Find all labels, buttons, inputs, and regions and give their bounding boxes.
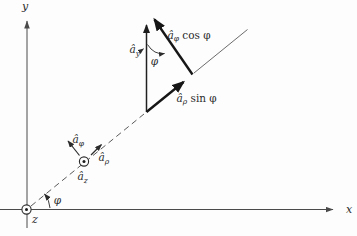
y-axis-label: y <box>21 0 29 13</box>
a-rho-unit-vector-label: âρ <box>99 151 110 166</box>
figure-canvas: y x z φ φ ây âφ âρ âz âφ cos φ âρ sin φ <box>0 0 357 236</box>
a-z-unit-vector-label: âz <box>78 170 88 185</box>
a-y-vector-label: ây <box>130 43 141 58</box>
a-rho-sin-phi-label: âρ sin φ <box>177 92 217 107</box>
a-z-out-of-page-icon <box>79 157 88 166</box>
x-axis-label: x <box>346 203 353 216</box>
phi-angle-arc-apex <box>148 45 165 54</box>
phi-angle-label-origin: φ <box>54 194 62 206</box>
a-phi-unit-vector-label: âφ <box>73 133 85 148</box>
phi-angle-label-apex: φ <box>151 55 159 67</box>
a-phi-cos-phi-label: âφ cos φ <box>168 29 211 44</box>
phi-angle-arc-origin <box>45 194 51 208</box>
coordinate-diagram: y x z φ φ ây âφ âρ âz âφ cos φ âρ sin φ <box>0 0 357 236</box>
origin-z-out-of-page-icon <box>22 205 31 214</box>
z-origin-label: z <box>31 213 38 226</box>
